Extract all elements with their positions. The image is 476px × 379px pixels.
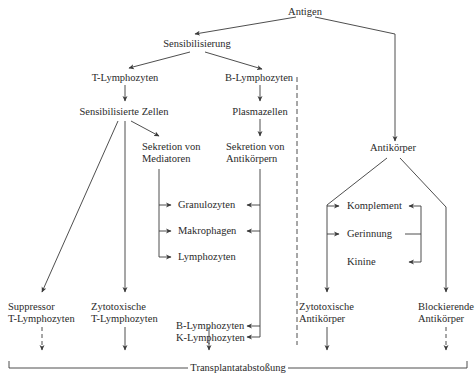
node-plasmazellen: Plasmazellen [232,106,287,118]
node-bk-line1: B-Lymphozyten [176,320,245,332]
node-sekretion-antikoerpern-line1: Sekretion von [226,141,285,153]
node-b-lymphozyten: B-Lymphozyten [225,72,293,84]
node-zytotox-ak-line2: Antikörper [299,313,354,325]
node-sekretion-mediatoren-line1: Sekretion von [142,141,201,153]
node-zytotox-t-line1: Zytotoxische [91,301,158,313]
node-kinine: Kinine [347,256,376,268]
node-transplantatabstossung: Transplantatabstoßung [190,362,285,374]
node-blockierende-antikoerper: Blockierende Antikörper [418,301,474,325]
node-zytotoxische-t-lymphozyten: Zytotoxische T-Lymphozyten [91,301,158,325]
node-makrophagen: Makrophagen [178,225,236,237]
node-bk-line2: K-Lymphozyten [176,332,245,344]
node-antigen: Antigen [288,6,322,18]
node-zytotoxische-antikoerper: Zytotoxische Antikörper [299,301,354,325]
node-zytotox-ak-line1: Zytotoxische [299,301,354,313]
node-blockierend-line1: Blockierende [418,301,474,313]
node-sensibilisierte-zellen: Sensibilisierte Zellen [80,106,169,118]
node-b-k-lymphozyten: B-Lymphozyten K-Lymphozyten [176,320,245,344]
node-suppressor-line2: T-Lymphozyten [8,313,75,325]
node-sekretion-antikoerpern: Sekretion von Antikörpern [226,141,285,165]
node-sekretion-mediatoren-line2: Mediatoren [142,153,201,165]
node-antikoerper: Antikörper [370,142,416,154]
node-sensibilisierung: Sensibilisierung [163,38,231,50]
node-gerinnung: Gerinnung [347,228,392,240]
node-blockierend-line2: Antikörper [418,313,474,325]
node-lymphozyten: Lymphozyten [178,251,236,263]
node-zytotox-t-line2: T-Lymphozyten [91,313,158,325]
node-suppressor-line1: Suppressor [8,301,75,313]
node-sekretion-antikoerpern-line2: Antikörpern [226,153,285,165]
node-sekretion-mediatoren: Sekretion von Mediatoren [142,141,201,165]
transplant-rejection-diagram: Antigen Sensibilisierung T-Lymphozyten B… [0,0,476,379]
node-granulozyten: Granulozyten [178,199,235,211]
node-suppressor-t-lymphozyten: Suppressor T-Lymphozyten [8,301,75,325]
node-t-lymphozyten: T-Lymphozyten [92,72,159,84]
node-komplement: Komplement [347,200,402,212]
